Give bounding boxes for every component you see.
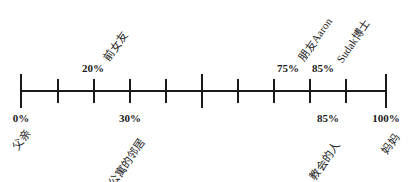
tick-40 <box>165 79 167 103</box>
label-below-1: 公寓的邻居 <box>106 136 147 182</box>
label-above-2: Sudak博士 <box>334 17 372 64</box>
tick-10 <box>57 79 59 103</box>
percent-below-2: 85% <box>317 112 339 124</box>
percent-below-1: 30% <box>119 112 141 124</box>
tick-100 <box>385 74 387 108</box>
label-above-0: 前女友 <box>101 29 130 63</box>
tick-30 <box>129 79 131 103</box>
percent-below-3: 100% <box>372 112 400 124</box>
label-above-1: 朋友Aaron <box>296 15 334 62</box>
percent-above-1: 75% <box>277 62 299 74</box>
percent-above-0: 20% <box>82 62 104 74</box>
tick-70 <box>273 79 275 103</box>
tick-80 <box>309 79 311 103</box>
tick-0 <box>20 74 22 108</box>
axis-line <box>20 90 386 92</box>
tick-60 <box>237 79 239 103</box>
label-below-3: 妈妈 <box>379 131 401 156</box>
tick-50 <box>201 74 203 108</box>
percent-above-2: 85% <box>312 62 334 74</box>
tick-90 <box>345 79 347 103</box>
percent-below-0: 0% <box>13 112 30 124</box>
label-below-2: 教会的人 <box>307 139 342 182</box>
label-below-0: 父亲 <box>10 127 32 152</box>
tick-20 <box>93 79 95 103</box>
number-line-diagram: 20% 前女友 75% 朋友Aaron 85% Sudak博士 0% 父亲 30… <box>0 0 409 182</box>
